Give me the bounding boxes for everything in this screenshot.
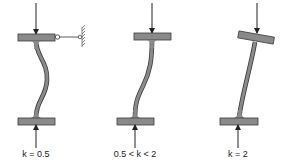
buckled-column [135,40,152,118]
panel-k-between [117,3,171,148]
label-k-2: k = 2 [228,149,248,159]
label-k-0-5: k = 0.5 [22,149,49,159]
bottom-fillet [234,110,245,118]
panel-k-2 [220,3,274,148]
panel-k-0-5 [18,3,85,148]
label-k-between: 0.5 < k < 2 [114,149,157,159]
bottom-fillet [31,110,41,118]
hinge-icon [55,35,59,39]
bottom-fillet [130,110,140,118]
top-fillet [31,41,41,49]
wall-support-icon [82,25,85,47]
top-flange [134,33,171,40]
column-buckling-diagram [0,0,290,167]
bottom-flange [117,118,154,125]
bottom-flange [18,118,55,125]
bottom-flange [220,118,258,125]
top-flange [18,34,55,41]
top-fillet [147,40,157,48]
top-flange [238,31,275,44]
